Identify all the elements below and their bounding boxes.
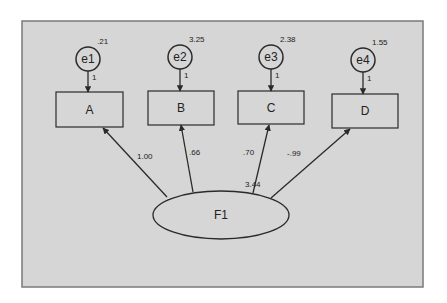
observed-label-c: C: [267, 101, 276, 115]
error-path-label-e1: 1: [92, 73, 97, 82]
error-path-label-e4: 1: [367, 74, 372, 83]
error-variance-e4: 1.55: [372, 38, 388, 47]
error-path-label-e2: 1: [184, 71, 189, 80]
loading-label-c: .70: [243, 148, 255, 157]
path-diagram: 1.00.66.70-.99Ae11.21Be213.25Ce312.38De4…: [0, 0, 447, 303]
error-label-e1: e1: [81, 52, 95, 66]
error-variance-e1: .21: [97, 37, 109, 46]
error-path-label-e3: 1: [275, 71, 280, 80]
latent-variance-f1: 3.44: [245, 180, 261, 189]
loading-label-d: -.99: [287, 149, 301, 158]
loading-label-b: .66: [189, 148, 201, 157]
error-label-e2: e2: [173, 50, 187, 64]
observed-label-a: A: [85, 103, 93, 117]
error-label-e3: e3: [264, 50, 278, 64]
loading-label-a: 1.00: [137, 152, 153, 161]
latent-label-f1: F1: [214, 208, 228, 222]
error-variance-e2: 3.25: [189, 35, 205, 44]
observed-label-b: B: [177, 101, 185, 115]
error-label-e4: e4: [356, 53, 370, 67]
error-variance-e3: 2.38: [280, 35, 296, 44]
observed-label-d: D: [361, 104, 370, 118]
